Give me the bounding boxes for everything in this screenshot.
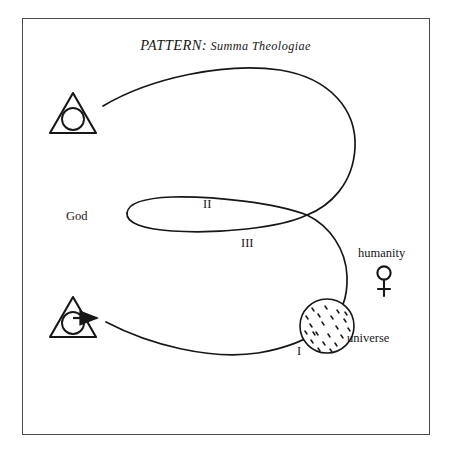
label-god: God [66,210,88,223]
universe-symbol [300,299,354,353]
title-prefix: PATTERN: [140,37,207,53]
label-humanity: humanity [358,247,405,260]
page-title: PATTERN: Summa Theologiae [0,38,451,53]
arc-inner-lower [127,213,307,232]
god-symbol-lower [50,297,97,337]
arc-bottom-return [106,322,327,355]
diagram-drawing [0,0,451,458]
label-universe: universe [347,332,389,345]
label-numeral-three: III [241,237,254,250]
label-numeral-one: I [297,345,301,358]
title-work: Summa Theologiae [207,39,311,53]
venus-symbol [377,266,390,296]
arc-inner-upper [127,197,307,215]
god-symbol-upper [50,93,96,133]
arc-outer-upper [103,68,355,215]
figure-canvas: PATTERN: Summa Theologiae God humanity u… [0,0,451,458]
label-numeral-two: II [203,198,211,211]
